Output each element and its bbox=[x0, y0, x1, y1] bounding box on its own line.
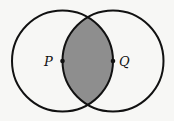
point-p-label: P bbox=[43, 54, 53, 69]
point-p-dot bbox=[60, 59, 65, 64]
venn-diagram: P Q bbox=[0, 0, 174, 121]
shaded-intersection-region bbox=[63, 17, 113, 104]
point-q-dot bbox=[111, 59, 116, 64]
point-q-label: Q bbox=[119, 54, 130, 69]
